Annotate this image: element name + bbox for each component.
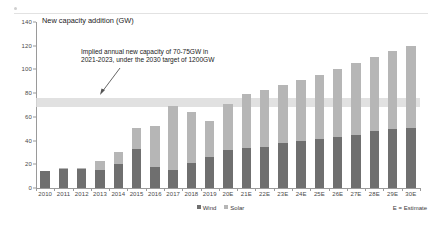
bar-segment-solar [351, 63, 361, 135]
bar-segment-wind [150, 167, 160, 188]
bar-segment-wind [114, 164, 124, 188]
legend-label: Wind [203, 205, 217, 211]
bar-column [168, 106, 178, 188]
bar-segment-wind [388, 129, 398, 188]
bar-segment-solar [333, 69, 343, 137]
x-axis-tick-label: 25E [310, 191, 328, 197]
bar-column [370, 57, 380, 188]
bar-column [260, 90, 270, 188]
bar-segment-solar [278, 85, 288, 143]
x-axis-tick-label: 21E [237, 191, 255, 197]
x-axis-tick-label: 2015 [127, 191, 145, 197]
bar-segment-solar [223, 104, 233, 150]
x-axis-tick-label: 2010 [36, 191, 54, 197]
legend-item-wind[interactable]: Wind [197, 205, 217, 211]
implied-capacity-annotation: Implied annual new capacity of 70-75GW i… [81, 48, 217, 64]
x-axis-tick-label: 24E [292, 191, 310, 197]
x-axis-tick-mark [420, 188, 421, 191]
bar-segment-wind [296, 141, 306, 188]
bar-segment-wind [278, 143, 288, 188]
x-axis-labels: 2010201120122013201420152016201720182019… [36, 191, 420, 205]
bar-column [296, 80, 306, 188]
bar-segment-solar [388, 51, 398, 129]
bar-column [132, 128, 142, 188]
bar-segment-wind [132, 149, 142, 188]
bar-column [223, 104, 233, 188]
bar-segment-wind [223, 150, 233, 188]
bar-column [205, 121, 215, 188]
chart-footnote: E = Estimate [393, 205, 427, 211]
x-axis-tick-label: 27E [347, 191, 365, 197]
x-axis-tick-label: 2019 [201, 191, 219, 197]
x-axis-tick-label: 2012 [73, 191, 91, 197]
bar-column [406, 46, 416, 188]
bar-segment-solar [296, 80, 306, 140]
bar-column [351, 63, 361, 188]
bar-column [278, 85, 288, 188]
bar-segment-solar [187, 112, 197, 164]
x-axis-tick-label: 2014 [109, 191, 127, 197]
bar-segment-solar [95, 161, 105, 170]
x-axis-tick-label: 23E [274, 191, 292, 197]
legend-swatch-wind [197, 205, 201, 209]
bar-segment-wind [351, 135, 361, 188]
top-divider [14, 13, 428, 14]
bar-segment-solar [205, 121, 215, 157]
bar-column [242, 94, 252, 188]
bar-segment-wind [95, 170, 105, 188]
bar-column [333, 69, 343, 188]
bar-column [388, 51, 398, 188]
bar-column [59, 168, 69, 188]
bar-column [95, 161, 105, 188]
x-axis-tick-label: 2018 [182, 191, 200, 197]
bar-segment-wind [205, 157, 215, 188]
plot-area: 020406080100120140 [36, 22, 420, 188]
capacity-addition-chart: New capacity addition (GW) 0204060801001… [0, 0, 441, 228]
legend-item-solar[interactable]: Solar [224, 205, 244, 211]
x-axis-tick-label: 22E [255, 191, 273, 197]
bar-column [187, 112, 197, 188]
legend-label: Solar [230, 205, 244, 211]
bar-segment-solar [315, 75, 325, 139]
x-axis-line [36, 188, 420, 189]
bar-segment-wind [333, 137, 343, 188]
bar-segment-solar [150, 126, 160, 167]
bar-segment-wind [59, 169, 69, 188]
legend-swatch-solar [224, 205, 228, 209]
x-axis-tick-label: 2017 [164, 191, 182, 197]
bar-segment-solar [168, 106, 178, 170]
x-axis-tick-label: 28E [365, 191, 383, 197]
bar-segment-wind [406, 128, 416, 188]
bar-column [114, 152, 124, 188]
bar-segment-wind [315, 139, 325, 188]
bar-segment-solar [114, 152, 124, 163]
bar-segment-solar [242, 94, 252, 147]
bar-segment-solar [406, 46, 416, 127]
bar-segment-solar [370, 57, 380, 131]
bar-segment-wind [242, 148, 252, 188]
bar-segment-wind [370, 131, 380, 188]
bar-column [77, 168, 87, 188]
bar-column [40, 171, 50, 188]
bar-column [150, 126, 160, 188]
bar-segment-wind [168, 170, 178, 188]
bar-segment-wind [187, 163, 197, 188]
bar-segment-wind [40, 171, 50, 188]
x-axis-tick-label: 20E [219, 191, 237, 197]
bar-segment-solar [260, 90, 270, 147]
bar-series-layer [36, 22, 420, 188]
top-corner-dot [14, 7, 17, 10]
x-axis-tick-label: 2016 [146, 191, 164, 197]
x-axis-tick-label: 2013 [91, 191, 109, 197]
x-axis-tick-label: 26E [329, 191, 347, 197]
bar-segment-wind [77, 169, 87, 188]
bar-column [315, 75, 325, 188]
x-axis-tick-label: 29E [383, 191, 401, 197]
x-axis-tick-label: 30E [402, 191, 420, 197]
bar-segment-solar [132, 128, 142, 149]
chart-legend: WindSolar [0, 205, 441, 211]
x-axis-tick-label: 2011 [54, 191, 72, 197]
bar-segment-wind [260, 147, 270, 189]
